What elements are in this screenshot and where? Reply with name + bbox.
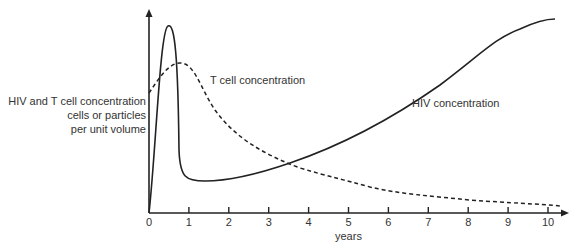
y-axis-label-line1: HIV and T cell concentration	[2, 94, 146, 108]
x-tick-label: 8	[465, 216, 471, 228]
hiv-concentration-line	[149, 19, 555, 213]
tcell-annotation: T cell concentration	[210, 74, 305, 86]
x-tick-label: 5	[345, 216, 351, 228]
x-tick-label: 4	[306, 216, 312, 228]
y-axis-label-line3: per unit volume	[2, 122, 146, 136]
x-axis-arrow-icon	[561, 210, 569, 217]
hiv-annotation: HIV concentration	[412, 97, 499, 109]
y-axis-arrow-icon	[146, 9, 153, 17]
x-tick-label: 7	[425, 216, 431, 228]
x-tick-label: 6	[385, 216, 391, 228]
y-axis-label-line2: cells or particles	[2, 108, 146, 122]
x-tick-label: 3	[266, 216, 272, 228]
hiv-tcell-chart: HIV and T cell concentration cells or pa…	[0, 0, 580, 248]
x-tick-label: 2	[226, 216, 232, 228]
x-tick-label: 9	[505, 216, 511, 228]
x-tick-label: 1	[186, 216, 192, 228]
y-axis-label: HIV and T cell concentration cells or pa…	[2, 94, 146, 136]
x-tick-label: 10	[542, 216, 554, 228]
x-axis-label: years	[335, 230, 362, 242]
x-axis-ticks	[189, 207, 548, 213]
x-tick-label: 0	[146, 216, 152, 228]
